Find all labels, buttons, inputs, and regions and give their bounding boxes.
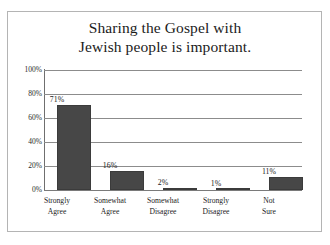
bar-value-strongly-disagree: 1% <box>194 179 238 188</box>
category-label-strongly-agree-line-1: Strongly <box>29 196 85 207</box>
category-label-somewhat-agree-line-2: Agree <box>82 207 138 218</box>
category-label-strongly-agree: Strongly Agree <box>29 196 85 217</box>
category-label-strongly-disagree-line-1: Strongly <box>188 196 244 207</box>
bar-not-sure[interactable] <box>269 177 303 190</box>
gridline-baseline-0 <box>44 190 302 191</box>
category-label-not-sure-line-2: Sure <box>241 207 297 218</box>
bar-strongly-agree[interactable] <box>57 105 91 190</box>
gridline-100 <box>44 70 302 71</box>
ytick-label-0: 0% <box>8 186 42 194</box>
bar-value-somewhat-disagree: 2% <box>141 178 185 187</box>
category-label-strongly-disagree-line-2: Disagree <box>188 207 244 218</box>
bar-strongly-disagree[interactable] <box>216 188 250 190</box>
category-label-not-sure-line-1: Not <box>241 196 297 207</box>
ytick-label-60: 60% <box>8 114 42 122</box>
bar-somewhat-agree[interactable] <box>110 171 144 190</box>
category-label-somewhat-disagree-line-1: Somewhat <box>135 196 191 207</box>
chart-title-line-2: Jewish people is important. <box>20 37 310 56</box>
ytick-label-40: 40% <box>8 138 42 146</box>
category-label-not-sure: Not Sure <box>241 196 297 217</box>
bar-value-somewhat-agree: 16% <box>88 161 132 170</box>
chart-title: Sharing the Gospel with Jewish people is… <box>20 18 310 56</box>
gridline-80 <box>44 94 302 95</box>
category-label-strongly-agree-line-2: Agree <box>29 207 85 218</box>
chart-title-line-1: Sharing the Gospel with <box>20 18 310 37</box>
category-label-somewhat-disagree: Somewhat Disagree <box>135 196 191 217</box>
category-label-somewhat-agree-line-1: Somewhat <box>82 196 138 207</box>
bar-somewhat-disagree[interactable] <box>163 188 197 190</box>
ytick-label-100: 100% <box>8 66 42 74</box>
chart-figure: Sharing the Gospel with Jewish people is… <box>0 0 330 245</box>
category-label-somewhat-agree: Somewhat Agree <box>82 196 138 217</box>
category-label-strongly-disagree: Strongly Disagree <box>188 196 244 217</box>
category-label-somewhat-disagree-line-2: Disagree <box>135 207 191 218</box>
bar-value-strongly-agree: 71% <box>35 95 79 104</box>
ytick-label-20: 20% <box>8 162 42 170</box>
bar-value-not-sure: 11% <box>247 167 291 176</box>
